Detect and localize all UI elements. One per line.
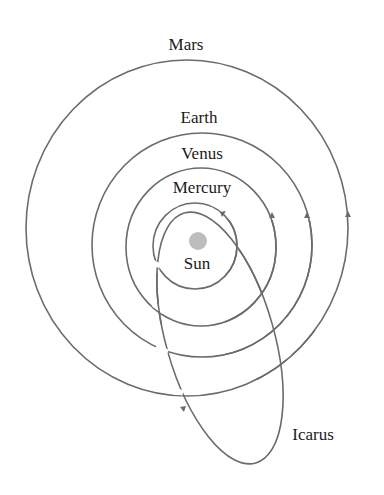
icarus-label: Icarus — [292, 425, 334, 445]
earth-label: Earth — [181, 108, 218, 128]
mercury-label: Mercury — [173, 178, 232, 198]
icarus-arrow-icon — [180, 406, 186, 412]
earth-arrow-icon — [304, 212, 310, 218]
mars-label: Mars — [169, 35, 204, 55]
orbit-diagram — [0, 0, 384, 495]
icarus-orbit — [132, 198, 307, 478]
sun-dot — [189, 232, 207, 250]
sun-label: Sun — [184, 254, 210, 274]
mars-arrow-icon — [345, 211, 351, 217]
venus-label: Venus — [181, 144, 223, 164]
